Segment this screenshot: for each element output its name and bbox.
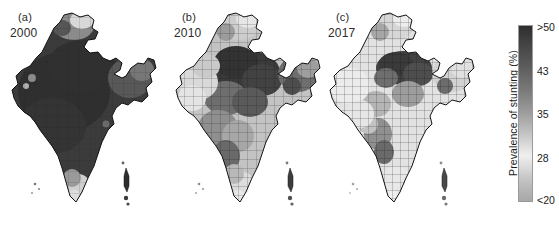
map-fill-region-2017: [320, 6, 480, 226]
colorbar-gradient-bar: [518, 25, 533, 202]
andaman-nicobar-islands-2000: [122, 162, 130, 206]
lakshadweep-islands-2010: [195, 183, 204, 194]
colorbar-tick-above-50: >50: [537, 21, 555, 33]
map-fill-region-2010: [166, 6, 326, 226]
colorbar-tick-below-20: <20: [537, 194, 555, 206]
lakshadweep-islands-2017: [349, 183, 358, 194]
india-choropleth-svg-2010: [166, 6, 326, 226]
map-panel-a: (a) 2000: [2, 0, 162, 229]
map-panel-b: (b) 2010: [166, 0, 326, 229]
andaman-nicobar-islands-2010: [286, 162, 294, 206]
india-choropleth-svg-2017: [320, 6, 480, 226]
lakshadweep-islands-2000: [31, 183, 40, 194]
colorbar-tick-35: 35: [537, 108, 549, 120]
colorbar-legend: Prevalence of stunting (%) >50 43 35 28 …: [492, 0, 559, 229]
india-choropleth-svg-2000: [2, 6, 162, 226]
map-fill-region-2000: [2, 6, 162, 226]
india-map-2017: [320, 6, 480, 226]
andaman-nicobar-islands-2017: [440, 162, 448, 206]
india-map-2000: [2, 6, 162, 226]
india-map-2010: [166, 6, 326, 226]
stunting-prevalence-figure: (a) 2000: [0, 0, 559, 229]
map-panel-c: (c) 2017: [320, 0, 480, 229]
colorbar-tick-43: 43: [537, 65, 549, 77]
colorbar-tick-28: 28: [537, 152, 549, 164]
